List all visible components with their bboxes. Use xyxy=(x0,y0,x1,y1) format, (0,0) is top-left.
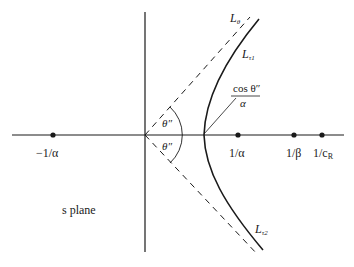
label-1-over-alpha: 1/α xyxy=(229,146,245,160)
point-1-over-alpha xyxy=(235,132,240,137)
label-1-over-cR: 1/cR xyxy=(313,146,334,161)
label-L-tau1: Lτ1 xyxy=(241,47,255,62)
label-angle-upper: θ″ xyxy=(162,117,172,129)
label-L-tau2: Lτ2 xyxy=(254,222,268,237)
point-1-over-beta xyxy=(291,132,296,137)
vertex-annotation-denominator: α xyxy=(240,97,246,109)
s-plane-diagram: −1/α 1/α 1/β 1/cR Lθ Lτ1 Lτ2 θ″ θ″ cos θ… xyxy=(0,0,354,267)
point-1-over-cR xyxy=(319,132,324,137)
vertex-annotation-numerator: cos θ″ xyxy=(233,82,260,94)
label-1-over-cR-main: 1/c xyxy=(313,146,328,160)
s-plane-label: s plane xyxy=(62,203,96,217)
label-angle-lower: θ″ xyxy=(162,140,172,152)
label-1-over-beta: 1/β xyxy=(286,146,301,160)
point-minus-1-over-alpha xyxy=(50,132,55,137)
asymptote-upper xyxy=(145,17,250,135)
label-minus-1-over-alpha: −1/α xyxy=(36,146,59,160)
label-1-over-cR-sub: R xyxy=(328,152,334,161)
label-L-theta: Lθ xyxy=(229,11,241,26)
